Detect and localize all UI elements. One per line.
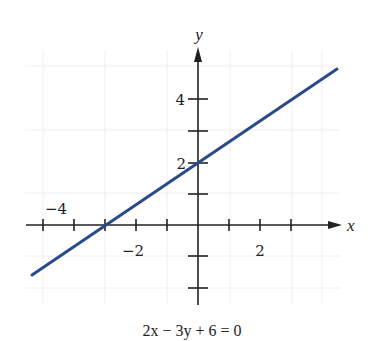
x-axis-arrow-icon <box>328 221 342 229</box>
y-axis-arrow-icon <box>194 47 202 62</box>
chart-canvas: −4 −2 2 4 2 y x 2x − 3y + 6 = 0 <box>0 0 373 341</box>
x-axis <box>26 219 335 231</box>
y-tick-label: 4 <box>175 91 185 109</box>
y-axis <box>188 55 208 305</box>
x-tick-label: −4 <box>45 200 67 218</box>
grid <box>25 50 340 305</box>
y-tick-label: 2 <box>176 155 186 173</box>
y-axis-label: y <box>193 25 203 44</box>
equation-caption: 2x − 3y + 6 = 0 <box>142 322 241 340</box>
x-axis-label: x <box>346 216 355 235</box>
x-tick-label: −2 <box>122 242 144 260</box>
x-tick-label: 2 <box>255 242 265 260</box>
